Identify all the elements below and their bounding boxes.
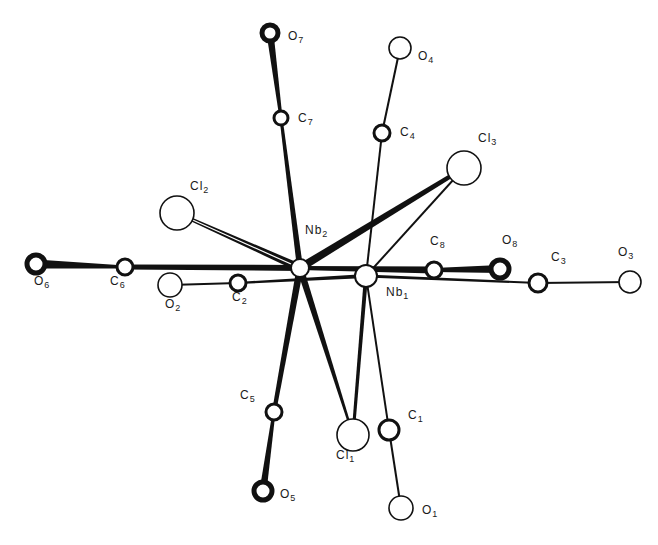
atom-o8 (491, 260, 509, 278)
atom-index: 6 (44, 280, 50, 290)
element-symbol: C (240, 388, 250, 402)
bond-c5-o5 (260, 412, 276, 492)
atom-c8 (426, 262, 442, 278)
atom-label-cl1: Cl1 (336, 448, 355, 464)
bond-nb2-c5 (272, 267, 303, 412)
atom-index: 7 (298, 35, 304, 45)
element-symbol: O (618, 245, 628, 259)
atom-index: 1 (349, 454, 355, 464)
bond-c6-o6 (36, 260, 125, 269)
atom-label-c6: C6 (110, 274, 126, 290)
molecular-structure-diagram (0, 0, 658, 545)
atom-label-o4: O4 (418, 49, 434, 65)
element-symbol: O (418, 49, 428, 63)
atom-label-nb1: Nb1 (386, 285, 409, 301)
atom-index: 1 (432, 509, 438, 519)
atom-c4 (374, 125, 390, 141)
atom-c3 (529, 274, 547, 292)
atom-label-o5: O5 (280, 487, 296, 503)
atom-label-o6: O6 (34, 274, 50, 290)
atom-label-c2: C2 (232, 290, 248, 306)
atom-label-c4: C4 (400, 125, 416, 141)
atom-label-cl2: Cl2 (190, 179, 209, 195)
atom-label-nb2: Nb2 (305, 223, 328, 239)
bond-nb1-c4 (365, 133, 383, 276)
element-symbol: O (165, 297, 175, 311)
atom-o6 (27, 255, 45, 273)
atom-c2 (230, 275, 246, 291)
element-symbol: C (400, 125, 410, 139)
atom-o5 (254, 482, 272, 500)
atom-index: 3 (628, 251, 634, 261)
atom-label-o2: O2 (165, 297, 181, 313)
atom-index: 2 (203, 185, 209, 195)
element-symbol: O (34, 274, 44, 288)
element-symbol: C (110, 274, 120, 288)
atom-c6 (117, 259, 133, 275)
atom-label-o1: O1 (422, 503, 438, 519)
bond-nb1-c3 (366, 275, 538, 285)
element-symbol: C (298, 111, 308, 125)
atom-index: 5 (290, 493, 296, 503)
atom-index: 8 (440, 240, 446, 250)
atom-label-o3: O3 (618, 245, 634, 261)
atom-index: 1 (403, 291, 409, 301)
atom-index: 4 (410, 131, 416, 141)
atom-index: 7 (308, 117, 314, 127)
atom-o3 (619, 271, 641, 293)
atom-cl3 (447, 151, 481, 185)
atom-index: 2 (242, 296, 248, 306)
atom-index: 4 (428, 55, 434, 65)
atom-label-c5: C5 (240, 388, 256, 404)
element-symbol: C (232, 290, 242, 304)
atom-index: 6 (120, 280, 126, 290)
atom-label-c7: C7 (298, 111, 314, 127)
atom-o4 (389, 37, 411, 59)
element-symbol: C (430, 234, 440, 248)
atom-label-o7: O7 (288, 29, 304, 45)
bond-nb2-c7 (280, 118, 304, 269)
atom-index: 3 (491, 137, 497, 147)
element-symbol: O (280, 487, 290, 501)
atom-label-cl3: Cl3 (478, 131, 497, 147)
element-symbol: O (502, 233, 512, 247)
bond-nb1-cl1 (352, 276, 369, 435)
atom-c5 (266, 404, 282, 420)
atom-cl2 (160, 196, 194, 230)
atom-index: 1 (418, 414, 424, 424)
atom-cl1 (337, 419, 369, 451)
element-symbol: C (408, 408, 418, 422)
element-symbol: Cl (478, 131, 491, 145)
atom-o7 (262, 25, 278, 41)
atom-label-c3: C3 (551, 250, 567, 266)
element-symbol: Nb (305, 223, 322, 237)
atom-index: 8 (512, 239, 518, 249)
bond-c7-o7 (267, 33, 283, 119)
atom-nb1 (355, 265, 377, 287)
bond-c3-o3 (538, 281, 630, 284)
atom-o1 (389, 496, 413, 520)
element-symbol: C (551, 250, 561, 264)
atom-label-c8: C8 (430, 234, 446, 250)
atom-label-o8: O8 (502, 233, 518, 249)
atom-index: 2 (322, 229, 328, 239)
atom-index: 3 (561, 256, 567, 266)
element-symbol: Nb (386, 285, 403, 299)
atom-c7 (274, 111, 288, 125)
bond-highlight (177, 213, 300, 268)
bond-nb2-c6 (125, 265, 300, 272)
atom-nb2 (291, 259, 309, 277)
bond-nb2-cl3 (298, 166, 465, 271)
atom-index: 5 (250, 394, 256, 404)
bond-nb2-cl1 (297, 267, 354, 435)
atom-o2 (158, 273, 182, 297)
element-symbol: Cl (190, 179, 203, 193)
element-symbol: Cl (336, 448, 349, 462)
atom-index: 2 (175, 303, 181, 313)
atom-c1 (379, 420, 399, 440)
element-symbol: O (288, 29, 298, 43)
atom-label-c1: C1 (408, 408, 424, 424)
atom-layer (27, 25, 641, 520)
bond-c4-o4 (381, 48, 401, 133)
element-symbol: O (422, 503, 432, 517)
